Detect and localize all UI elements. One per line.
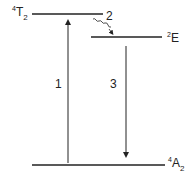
level-label-4T2: 4T2 (12, 6, 28, 18)
transition-label-3: 3 (110, 78, 117, 90)
energy-level-diagram (0, 0, 196, 179)
transition-2-arrowhead-stem (109, 29, 112, 33)
transition-label-2: 2 (106, 10, 113, 22)
level-label-2E: 2E (167, 32, 179, 44)
transition-label-1: 1 (55, 78, 62, 90)
level-label-4A2: 4A2 (168, 157, 184, 169)
